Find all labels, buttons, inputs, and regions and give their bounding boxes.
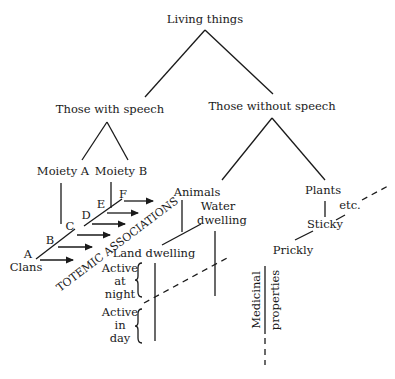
- no-speech-label: Those without speech: [208, 99, 336, 113]
- root-label: Living things: [167, 12, 243, 26]
- clan-letter: D: [81, 208, 90, 222]
- branch-line: [82, 122, 107, 160]
- clan-line: [36, 229, 75, 259]
- animals-label: Animals: [173, 185, 221, 199]
- medicinal-label: Medicinal: [249, 271, 263, 329]
- night-label: Active: [101, 261, 139, 275]
- branch-line: [205, 30, 273, 94]
- water-label: Water: [201, 199, 236, 213]
- classification-diagram: Living things Those with speech Moiety A…: [0, 0, 395, 379]
- clan-letter: A: [23, 247, 33, 261]
- branch-line: [107, 122, 128, 160]
- day-label: day: [110, 331, 131, 345]
- plants-label: Plants: [305, 183, 341, 197]
- water-label: dwelling: [197, 213, 247, 227]
- night-label: at: [114, 274, 126, 288]
- land-label: Land dwelling: [113, 246, 196, 260]
- day-label: Active: [101, 305, 139, 319]
- clan-letter: F: [119, 187, 127, 201]
- day-label: in: [114, 318, 126, 332]
- clan-letter: E: [97, 197, 105, 211]
- branch-line: [272, 118, 325, 180]
- night-label: night: [105, 287, 136, 301]
- branch-line: [145, 30, 205, 97]
- plants-dashed-line: [362, 186, 388, 200]
- branch-line: [222, 118, 272, 180]
- moiety-b-label: Moiety B: [95, 164, 147, 178]
- clans-label: Clans: [10, 260, 43, 274]
- prickly-label: Prickly: [273, 243, 314, 257]
- medicinal-label: properties: [268, 270, 282, 331]
- plants-diagonal: [295, 231, 313, 240]
- clan-letter: B: [46, 233, 54, 247]
- moiety-a-label: Moiety A: [37, 164, 90, 178]
- speech-label: Those with speech: [56, 102, 165, 116]
- clan-letter: C: [66, 219, 75, 233]
- etc-label: etc.: [339, 198, 361, 212]
